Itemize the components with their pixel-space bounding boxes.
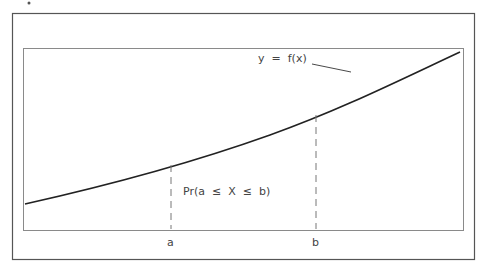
- curve-label-leader: [312, 64, 351, 72]
- curve-label: y = f(x): [258, 52, 307, 65]
- x-label-a: a: [167, 236, 174, 249]
- outer-frame: [13, 14, 475, 260]
- corner-mark: [28, 2, 31, 5]
- x-label-b: b: [312, 236, 319, 249]
- plot-box: [24, 49, 464, 231]
- density-curve: [25, 52, 460, 204]
- probability-diagram: y = f(x) Pr(a ≤ X ≤ b) a b: [0, 0, 485, 274]
- probability-label: Pr(a ≤ X ≤ b): [183, 185, 270, 198]
